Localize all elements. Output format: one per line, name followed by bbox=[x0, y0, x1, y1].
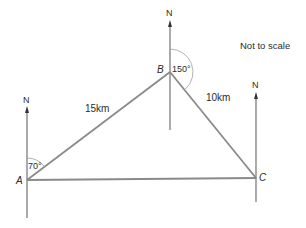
north-arrow-c-icon bbox=[254, 92, 258, 99]
north-label-c: N bbox=[252, 81, 259, 90]
point-label-c: C bbox=[259, 173, 266, 183]
north-arrow-a-icon bbox=[25, 106, 29, 113]
edge-ac bbox=[27, 178, 256, 180]
edge-label-bc: 10km bbox=[206, 93, 230, 103]
point-label-b: B bbox=[157, 65, 164, 75]
angle-label-b: 150° bbox=[172, 65, 191, 74]
edge-ab bbox=[27, 72, 170, 180]
edge-label-ab: 15km bbox=[85, 104, 109, 114]
north-label-a: N bbox=[23, 96, 30, 105]
angle-label-a: 70° bbox=[28, 162, 42, 171]
not-to-scale-note: Not to scale bbox=[240, 41, 290, 51]
point-label-a: A bbox=[16, 176, 23, 186]
north-arrow-b-icon bbox=[168, 20, 172, 27]
edge-bc bbox=[170, 72, 256, 178]
diagram-canvas bbox=[0, 0, 306, 228]
north-label-b: N bbox=[166, 9, 173, 18]
north-line-c bbox=[254, 92, 258, 202]
bearing-diagram: N N N A B C 70° 150° 15km 10km Not to sc… bbox=[0, 0, 306, 228]
